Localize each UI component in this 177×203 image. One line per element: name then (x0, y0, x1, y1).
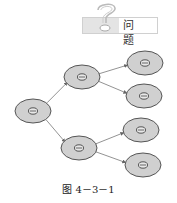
cell-leaf-1 (127, 51, 163, 75)
arrow-mid-top-to-leaf-2 (98, 81, 126, 93)
cell-leaf-3 (123, 118, 159, 142)
figure-caption: 图 4－3－1 (0, 181, 177, 196)
cell-mid-top (64, 65, 100, 89)
arrow-root-to-mid-bottom (46, 120, 65, 142)
cell-root (15, 99, 51, 123)
arrow-root-to-mid-top (47, 82, 67, 102)
cell-leaf-4 (125, 153, 161, 177)
nodes (15, 51, 163, 177)
arrow-mid-top-to-leaf-1 (99, 65, 128, 74)
cell-leaf-2 (126, 84, 162, 108)
cell-mid-bottom (61, 136, 97, 160)
cell-division-diagram (0, 0, 177, 203)
arrow-mid-bottom-to-leaf-3 (95, 133, 123, 144)
arrow-mid-bottom-to-leaf-4 (96, 152, 126, 163)
